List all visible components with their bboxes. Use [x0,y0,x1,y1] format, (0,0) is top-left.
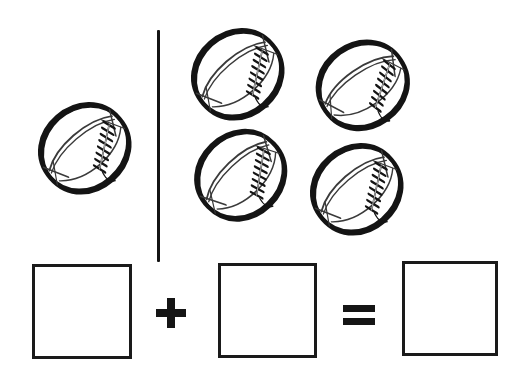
football-drawing [170,106,310,246]
equals-bottom-bar [343,318,375,325]
worksheet-canvas: Football Addition Problem + = [0,0,510,375]
plus-symbol-text: + [156,298,157,299]
vertical-divider [157,30,160,262]
plus-vertical-bar [167,298,175,328]
football-drawing [14,79,154,218]
equals-operator: = [343,305,375,325]
page-title: Football Addition Problem [0,21,1,22]
football-drawing [286,120,426,259]
box-addend-2[interactable] [218,263,317,358]
plus-operator: + [156,298,186,328]
football [186,27,289,122]
football [311,38,414,133]
box-addend-1[interactable] [32,264,132,359]
equals-top-bar [343,305,375,312]
football [189,128,292,223]
football [33,101,136,196]
box-sum[interactable] [402,261,498,356]
football [305,142,408,237]
